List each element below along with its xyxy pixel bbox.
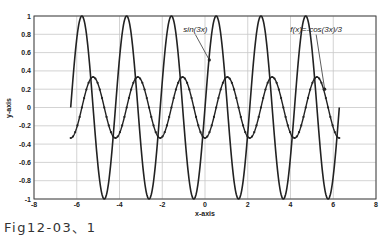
arrow-head-icon <box>323 88 326 91</box>
x-tick-label: -6 <box>74 201 80 208</box>
y-tick-label: -0.4 <box>19 141 31 148</box>
x-tick-label: 8 <box>374 201 378 208</box>
annotation-arrow <box>195 35 209 60</box>
y-tick-label: -0.6 <box>19 159 31 166</box>
x-axis-label: x-axis <box>195 210 215 217</box>
chart: -1-0.8-0.6-0.4-0.200.20.40.60.81 -8-6-4-… <box>0 0 389 239</box>
y-tick-label: 0.4 <box>21 67 31 74</box>
x-tick-label: 6 <box>331 201 335 208</box>
y-axis-label: y-axis <box>5 98 13 118</box>
arrow-head-icon <box>208 58 211 61</box>
annotation-label: sin(3x) <box>183 25 207 34</box>
x-tick-label: -8 <box>31 201 37 208</box>
x-tick-label: 2 <box>246 201 250 208</box>
x-tick-label: 4 <box>289 201 293 208</box>
x-tick-label: 0 <box>203 201 207 208</box>
y-tick-labels: -1-0.8-0.6-0.4-0.200.20.40.60.81 <box>19 13 31 203</box>
y-tick-label: -0.2 <box>19 122 31 129</box>
x-tick-label: -4 <box>116 201 122 208</box>
y-tick-label: 0.8 <box>21 31 31 38</box>
y-tick-label: -0.8 <box>19 177 31 184</box>
figure-caption: Fig12-03、1 <box>4 217 96 236</box>
y-tick-label: 0.6 <box>21 49 31 56</box>
y-tick-label: 0 <box>27 104 31 111</box>
y-tick-label: 0.2 <box>21 86 31 93</box>
x-tick-labels: -8-6-4-202468 <box>31 201 378 208</box>
y-tick-label: 1 <box>27 13 31 20</box>
x-tick-label: -2 <box>159 201 165 208</box>
annotation-label: f(x)=-cos(3x)/3 <box>290 25 342 34</box>
